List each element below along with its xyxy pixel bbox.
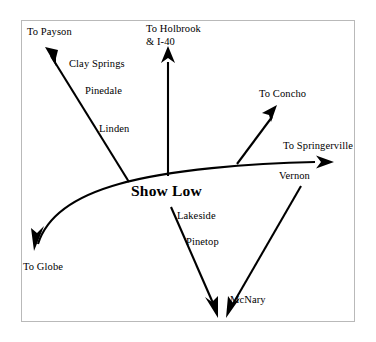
label-mcnary: McNary	[230, 294, 266, 306]
road-lakeside-pinetop	[171, 207, 216, 310]
label-pinedale: Pinedale	[85, 85, 122, 97]
label-to-concho: To Concho	[259, 88, 306, 100]
label-to-payson: To Payson	[27, 26, 72, 38]
label-show-low: Show Low	[131, 182, 202, 200]
label-to-holbrook-i40: & I-40	[146, 36, 175, 49]
label-pinetop: Pinetop	[186, 236, 219, 248]
road-map-diagram: To Payson To Holbrook & I-40 To Concho T…	[0, 0, 376, 342]
road-vernon	[230, 186, 301, 309]
arrowhead-to-holbrook	[161, 46, 175, 63]
label-lakeside: Lakeside	[177, 210, 216, 222]
label-to-holbrook: To Holbrook	[146, 23, 201, 36]
label-vernon: Vernon	[279, 170, 310, 182]
label-to-globe: To Globe	[23, 261, 63, 273]
road-payson	[51, 56, 129, 182]
label-clay-springs: Clay Springs	[69, 58, 125, 70]
label-to-springerville: To Springerville	[283, 140, 353, 152]
arrowhead-to-springerville	[316, 156, 334, 169]
road-concho	[237, 117, 272, 164]
label-linden: Linden	[99, 123, 129, 135]
road-network-svg	[0, 0, 376, 342]
arrowhead-to-globe	[31, 226, 44, 251]
